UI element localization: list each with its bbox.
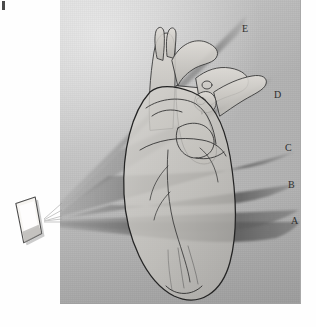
page-margin-bottom xyxy=(0,304,316,327)
illustration-panel xyxy=(60,0,301,304)
panel-paper-grain xyxy=(60,0,301,304)
scan-plane-label-D: D xyxy=(274,90,281,100)
scan-plane-label-B: B xyxy=(288,180,295,190)
scan-edge-tick-icon xyxy=(2,1,5,10)
scan-plane-label-E: E xyxy=(242,24,248,34)
page-margin-left xyxy=(0,0,60,327)
panel-shading xyxy=(60,0,301,304)
scan-plane-label-A: A xyxy=(291,216,298,226)
figure-root: and theimaging ofthe structuresin thereg… xyxy=(0,0,316,327)
ultrasound-transducer-probe-visible[interactable] xyxy=(11,194,46,246)
scan-plane-label-C: C xyxy=(285,143,292,153)
page-margin-right xyxy=(301,0,316,327)
